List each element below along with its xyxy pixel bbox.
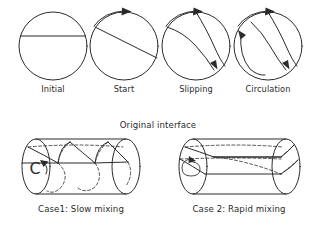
circulation-interface-curve-a bbox=[251, 22, 286, 70]
cylinder-case1: C bbox=[22, 139, 140, 194]
figure-root: Initial Start Slipping Circulation Origi… bbox=[0, 0, 312, 226]
panel-circulation bbox=[234, 8, 302, 81]
circulation-recirculation-arc bbox=[241, 34, 265, 75]
panel-initial bbox=[19, 12, 87, 80]
start-circle-outline bbox=[90, 12, 158, 80]
case2-upper-sheet-left bbox=[185, 147, 214, 157]
case1-right-cap bbox=[112, 139, 140, 194]
start-interface-line bbox=[95, 27, 157, 58]
case2-right-cap bbox=[272, 139, 300, 194]
slipping-interface-curve-a bbox=[167, 27, 214, 70]
mixing-diagram-svg: Initial Start Slipping Circulation Origi… bbox=[0, 0, 312, 226]
case2-shear-line-b bbox=[214, 157, 281, 174]
label-circulation: Circulation bbox=[246, 84, 291, 94]
initial-circle-outline bbox=[19, 12, 87, 80]
label-case1: Case1: Slow mixing bbox=[38, 204, 124, 214]
label-slipping: Slipping bbox=[179, 84, 213, 94]
case2-dashed-interface-mid bbox=[180, 158, 281, 159]
case1-fold3-upper bbox=[108, 142, 128, 162]
panel-slipping bbox=[162, 8, 230, 81]
circulation-interface-curve-b bbox=[268, 12, 297, 66]
panel-start bbox=[90, 8, 158, 81]
case1-fold2-hidden bbox=[78, 163, 100, 191]
case1-fold3-chord bbox=[95, 162, 128, 163]
circulation-up-arrowhead bbox=[238, 30, 246, 40]
label-start: Start bbox=[114, 84, 135, 94]
start-rotation-arrowhead bbox=[122, 8, 132, 16]
label-initial: Initial bbox=[41, 84, 64, 94]
circulation-down-arrowhead bbox=[282, 60, 290, 70]
label-original-interface: Original interface bbox=[120, 120, 197, 130]
case2-dashed-interface-top bbox=[185, 145, 283, 147]
circulation-rotation-arrowhead bbox=[265, 8, 275, 16]
case1-fold3-hidden bbox=[126, 162, 131, 186]
circulation-circle-outline bbox=[234, 12, 302, 80]
label-case2: Case 2: Rapid mixing bbox=[192, 204, 285, 214]
slipping-interface-curve-b bbox=[196, 12, 225, 66]
case1-rotation-glyph: C bbox=[29, 159, 40, 178]
slipping-rotation-arrowhead bbox=[193, 8, 203, 16]
cylinder-case2 bbox=[179, 139, 300, 194]
